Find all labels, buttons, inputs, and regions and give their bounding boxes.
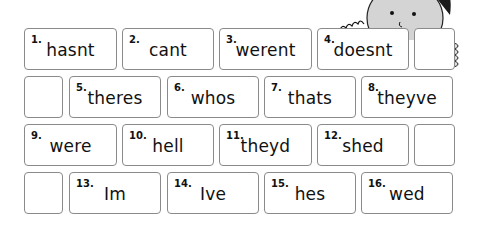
word-text: Ive: [168, 184, 258, 204]
word-box-12[interactable]: 12. shed: [317, 124, 409, 166]
blank-box: [24, 76, 63, 118]
word-text: hell: [123, 136, 213, 156]
word-text: hasnt: [25, 40, 116, 60]
word-box-5[interactable]: 5. theres: [69, 76, 161, 118]
word-box-14[interactable]: 14. Ive: [167, 172, 259, 214]
word-box-3[interactable]: 3. werent: [219, 28, 312, 70]
word-box-7[interactable]: 7. thats: [264, 76, 356, 118]
word-text: wed: [362, 184, 452, 204]
blank-box: [414, 28, 455, 70]
word-box-9[interactable]: 9. were: [24, 124, 117, 166]
word-text: cant: [123, 40, 213, 60]
word-text: whos: [168, 88, 258, 108]
word-text: theyd: [220, 136, 311, 156]
word-box-16[interactable]: 16. wed: [361, 172, 453, 214]
word-box-11[interactable]: 11. theyd: [219, 124, 312, 166]
blank-box: [24, 172, 63, 214]
word-text: werent: [220, 40, 311, 60]
word-box-13[interactable]: 13. Im: [69, 172, 161, 214]
word-box-4[interactable]: 4. doesnt: [317, 28, 409, 70]
word-box-10[interactable]: 10. hell: [122, 124, 214, 166]
word-text: doesnt: [318, 40, 408, 60]
word-box-15[interactable]: 15. hes: [264, 172, 356, 214]
word-text: were: [25, 136, 116, 156]
word-text: hes: [265, 184, 355, 204]
word-box-8[interactable]: 8. theyve: [361, 76, 453, 118]
word-text: thats: [265, 88, 355, 108]
word-text: shed: [318, 136, 408, 156]
word-text: theres: [70, 88, 160, 108]
word-text: Im: [70, 184, 160, 204]
word-box-6[interactable]: 6. whos: [167, 76, 259, 118]
word-box-1[interactable]: 1. hasnt: [24, 28, 117, 70]
word-text: theyve: [362, 88, 452, 108]
blank-box: [414, 124, 455, 166]
word-box-2[interactable]: 2. cant: [122, 28, 214, 70]
